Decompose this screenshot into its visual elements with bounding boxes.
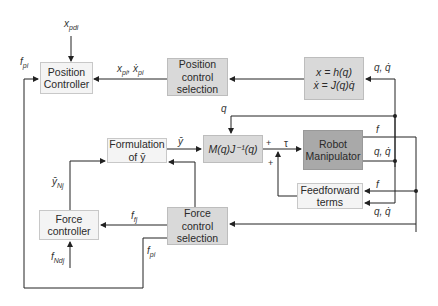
f-ndj-label: fNdj	[51, 251, 64, 264]
force-controller-block: Force controller	[39, 210, 99, 240]
feedforward-block: Feedforward terms	[297, 183, 363, 209]
kinematics-block: x = h(q) ẋ = J(q)q̇	[304, 57, 364, 100]
q-label: q	[221, 103, 227, 114]
robot-manipulator-block: Robot Manipulator	[303, 130, 363, 170]
force-control-selection-block: Force control selection	[167, 207, 228, 245]
y-nj-label: ȳNj	[52, 176, 64, 189]
f-pi-bottom-label: fpi	[147, 245, 155, 258]
q-qdot-feedforward-label: q, q̇	[374, 206, 391, 217]
x-pi-label: xpi, ẋpi	[117, 63, 143, 76]
f-feedforward-label: f	[376, 179, 379, 190]
position-controller-block: Position Controller	[40, 62, 93, 94]
q-qdot-robot-label: q, q̇	[374, 146, 391, 157]
f-pi-top-label: fpi	[20, 56, 28, 69]
formulation-block: Formulation of ȳ	[107, 138, 167, 163]
f-fj-label: ffj	[131, 210, 137, 223]
plus-sign-top: +	[266, 138, 271, 148]
position-control-selection-block: Position control selection	[167, 58, 228, 96]
y-bar-label: ȳ	[178, 136, 183, 147]
f-robot-label: f	[376, 124, 379, 135]
x-pdi-label: xpdi	[64, 18, 78, 31]
plus-sign-bottom: +	[268, 158, 273, 168]
inertia-block: M(q)J⁻¹(q)	[203, 135, 263, 163]
q-qdot-kinematics-label: q, q̇	[374, 62, 391, 73]
tau-label: τ	[284, 138, 288, 149]
